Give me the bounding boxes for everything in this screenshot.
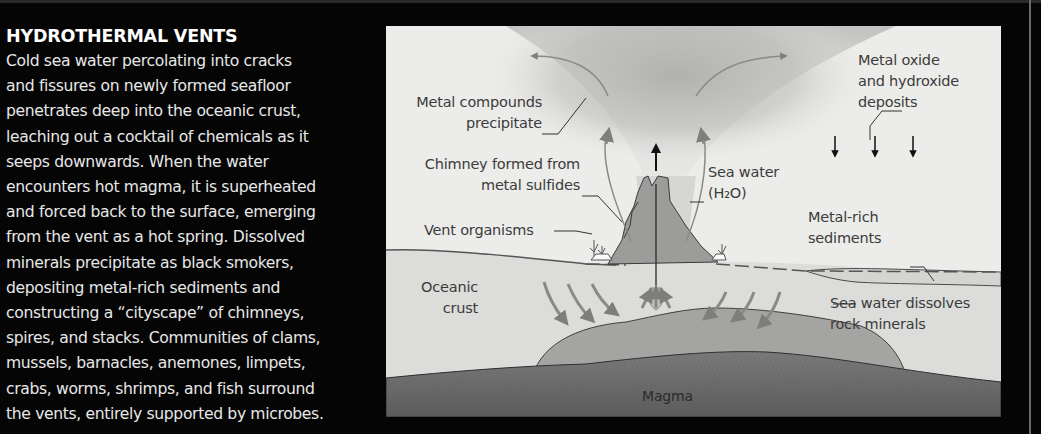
label-line: crust [406, 298, 478, 319]
label-metal-oxide: Metal oxide and hydroxide deposits [858, 50, 959, 113]
label-line: Sea water dissolves [830, 293, 970, 314]
body-line: Cold sea water percolating into cracks [6, 49, 386, 74]
label-line: rock minerals [830, 314, 970, 335]
label-line: Metal compounds [390, 92, 542, 113]
label-line: Oceanic [406, 277, 478, 298]
body-line: encounters hot magma, it is superheated [6, 175, 386, 200]
article-body: Cold sea water percolating into cracks a… [6, 49, 386, 427]
body-line: seeps downwards. When the water [6, 150, 386, 175]
body-line: and forced back to the surface, emerging [6, 200, 386, 225]
label-line: metal sulfides [390, 175, 580, 196]
article-heading: HYDROTHERMAL VENTS [6, 24, 386, 48]
body-line: crabs, worms, shrimps, and fish surround [6, 377, 386, 402]
label-line: (H₂O) [708, 183, 779, 204]
label-line: precipitate [390, 113, 542, 134]
body-line: the vents, entirely supported by microbe… [6, 402, 386, 427]
body-line: constructing a “cityscape” of chimneys, [6, 301, 386, 326]
label-line: Sea water [708, 162, 779, 183]
body-line: depositing metal-rich sediments and [6, 276, 386, 301]
body-line: penetrates deep into the oceanic crust, [6, 99, 386, 124]
body-line: from the vent as a hot spring. Dissolved [6, 225, 386, 250]
vent-organisms-right [712, 244, 726, 260]
body-line: leaching out a cocktail of chemicals as … [6, 125, 386, 150]
body-line: and fissures on newly formed seafloor [6, 74, 386, 99]
label-line: sediments [808, 228, 881, 249]
label-line: Chimney formed from [390, 154, 580, 175]
vent-organisms-left [590, 240, 612, 260]
label-oceanic-crust: Oceanic crust [406, 277, 478, 319]
article-text-column: HYDROTHERMAL VENTS Cold sea water percol… [6, 24, 386, 427]
label-metal-rich-sediments: Metal-rich sediments [808, 207, 881, 249]
body-line: spires, and stacks. Communities of clams… [6, 326, 386, 351]
label-chimney: Chimney formed from metal sulfides [390, 154, 580, 196]
label-sea-water: Sea water (H₂O) [708, 162, 779, 204]
label-line: and hydroxide [858, 71, 959, 92]
label-magma: Magma [642, 386, 693, 407]
label-line: Metal oxide [858, 50, 959, 71]
label-line: Metal-rich [808, 207, 881, 228]
label-line: deposits [858, 92, 959, 113]
label-metal-compounds: Metal compounds precipitate [390, 92, 542, 134]
label-sea-water-dissolves: Sea water dissolves rock minerals [830, 293, 970, 335]
body-line: mussels, barnacles, anemones, limpets, [6, 351, 386, 376]
hydrothermal-vent-diagram: Metal compounds precipitate Chimney form… [386, 26, 1001, 417]
label-vent-organisms: Vent organisms [424, 220, 534, 241]
body-line: minerals precipitate as black smokers, [6, 251, 386, 276]
page-top-edge [0, 0, 1041, 3]
page-edge-line [1029, 0, 1031, 434]
